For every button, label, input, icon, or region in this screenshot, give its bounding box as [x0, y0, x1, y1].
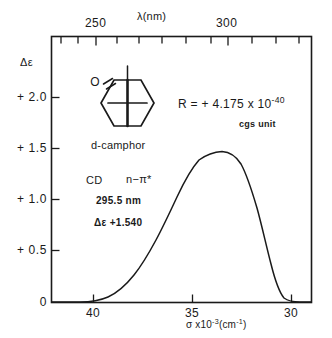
peak-delta-epsilon-symbol: Δε: [94, 217, 107, 228]
carbonyl-oxygen-label: O: [90, 75, 99, 89]
bottom-axis-title-exponent: -3: [212, 317, 219, 326]
bottom-axis-title: σ x10-3(cm-1): [186, 320, 246, 330]
y-tick-label-1-5: + 1.5: [3, 142, 47, 154]
bottom-tick-label-35: 35: [185, 307, 199, 319]
peak-delta-epsilon-value: +1.540: [110, 217, 143, 228]
transition-label: n−π*: [126, 174, 152, 185]
camphor-structure-diagram: [101, 66, 154, 126]
y-tick-label-1-0: + 1.0: [3, 193, 47, 205]
y-axis-title: Δε: [20, 57, 33, 68]
peak-delta-epsilon-label: Δε +1.540: [94, 218, 142, 228]
top-tick-label-300: 300: [216, 17, 237, 29]
top-tick-label-250: 250: [85, 17, 106, 29]
bottom-tick-label-30: 30: [284, 307, 298, 319]
rotational-strength-units: cgs unit: [239, 120, 276, 129]
technique-label: CD: [86, 175, 103, 186]
top-axis-title: λ(nm): [137, 11, 166, 22]
bottom-axis-title-tail-exponent: -1: [236, 317, 243, 326]
bottom-axis-title-close: ): [243, 319, 247, 330]
bottom-axis-ticks: [94, 295, 292, 303]
rotational-strength-value: R = + 4.175 x 10: [178, 97, 272, 111]
y-tick-label-0: 0: [3, 296, 47, 308]
top-axis-ticks: [61, 37, 299, 46]
y-axis-ticks: [52, 98, 60, 251]
peak-wavelength-label: 295.5 nm: [96, 196, 141, 206]
bottom-tick-label-40: 40: [86, 307, 100, 319]
rotational-strength-exponent: -40: [272, 95, 285, 105]
y-tick-label-2-0: + 2.0: [3, 91, 47, 103]
rotational-strength-annotation: R = + 4.175 x 10-40: [178, 98, 285, 110]
bottom-axis-title-tail: (cm: [219, 319, 236, 330]
y-tick-label-0-5: + 0.5: [3, 244, 47, 256]
chart-canvas: O: [0, 0, 332, 338]
cd-spectrum-figure: O λ(nm) 250 300 Δε + 2.0 + 1.5 + 1.0 + 0…: [0, 0, 332, 338]
bottom-axis-title-main: σ x10: [186, 319, 212, 330]
structure-caption: d-camphor: [91, 140, 145, 151]
